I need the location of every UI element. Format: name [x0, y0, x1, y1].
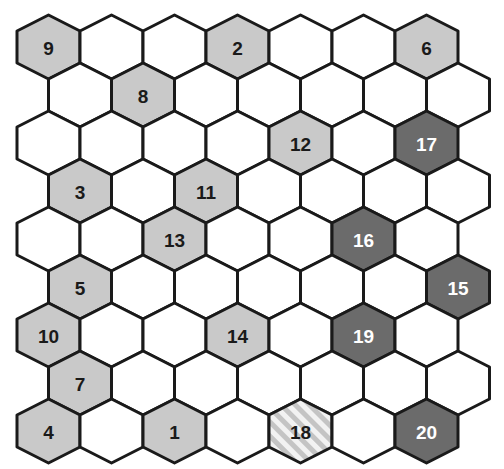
hex-label: 18 [290, 422, 311, 443]
hex-label: 8 [138, 86, 149, 107]
hex-label: 3 [75, 182, 86, 203]
hex-label: 6 [421, 38, 432, 59]
hex-label: 10 [38, 326, 59, 347]
hex-label: 5 [75, 278, 86, 299]
hex-label: 20 [416, 422, 437, 443]
hex-label: 12 [290, 134, 311, 155]
hex-label: 19 [353, 326, 374, 347]
hex-label: 1 [169, 422, 180, 443]
hex-label: 14 [227, 326, 249, 347]
hex-label: 17 [416, 134, 437, 155]
hex-cell-empty [206, 399, 269, 463]
hex-cell-empty [80, 399, 143, 463]
hex-label: 11 [196, 182, 217, 203]
hex-cells [17, 15, 490, 463]
hex-grid-board: 9268121731113165151014197411820 [0, 0, 504, 469]
hex-label: 16 [353, 230, 374, 251]
hex-label: 9 [43, 38, 54, 59]
hex-label: 2 [232, 38, 243, 59]
hex-label: 13 [164, 230, 185, 251]
hex-label: 4 [43, 422, 54, 443]
hex-label: 15 [447, 278, 469, 299]
hex-label: 7 [75, 374, 86, 395]
hex-cell-empty [332, 399, 395, 463]
